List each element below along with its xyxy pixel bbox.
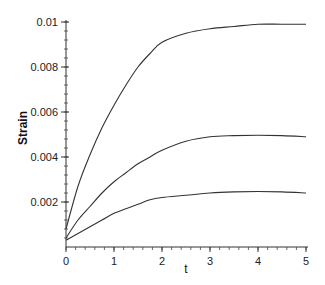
y-axis-title: Strain xyxy=(16,111,30,145)
y-tick-label: 0.002 xyxy=(30,196,58,208)
series-line-curve-mid xyxy=(66,135,306,238)
plot-lines xyxy=(66,24,306,240)
y-tick-label: 0.006 xyxy=(30,106,58,118)
y-axis: 0.0020.0040.0060.0080.01 xyxy=(30,16,69,247)
y-tick-label: 0.004 xyxy=(30,151,58,163)
series-line-curve-low xyxy=(66,191,306,240)
x-axis-title: t xyxy=(184,262,188,276)
y-tick-label: 0.008 xyxy=(30,61,58,73)
x-tick-label: 2 xyxy=(159,255,165,267)
x-tick-label: 0 xyxy=(63,255,69,267)
x-tick-label: 5 xyxy=(303,255,309,267)
strain-line-chart: 0.0020.0040.0060.0080.01 012345 Strain t xyxy=(0,0,325,285)
x-tick-label: 3 xyxy=(207,255,213,267)
series-line-curve-high xyxy=(66,24,306,229)
y-tick-label: 0.01 xyxy=(37,16,58,28)
x-tick-label: 1 xyxy=(111,255,117,267)
x-tick-label: 4 xyxy=(255,255,261,267)
